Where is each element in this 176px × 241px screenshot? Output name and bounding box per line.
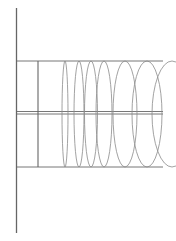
background xyxy=(0,0,176,241)
ring-diagram xyxy=(0,0,176,241)
